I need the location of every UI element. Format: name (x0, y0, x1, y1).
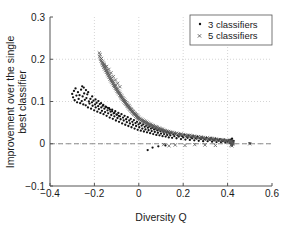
x-tick-label: 0 (136, 188, 142, 199)
scatter-plot-figure: −0.4−0.200.20.40.6−0.100.10.20.3 Diversi… (0, 0, 290, 229)
x-tick-label: 0.4 (221, 188, 235, 199)
y-axis-title-line2: best classifier (16, 70, 28, 134)
y-tick-label: 0.1 (31, 96, 45, 107)
x-tick-label: 0.2 (176, 188, 190, 199)
y-axis-title-line1: Improvement over the single (4, 36, 16, 169)
chart-canvas: −0.4−0.200.20.40.6−0.100.10.20.3 Diversi… (0, 0, 290, 229)
legend: 3 classifiers 5 classifiers (190, 15, 272, 45)
y-tick-label: 0.3 (31, 12, 45, 23)
x-tick-label: −0.2 (85, 188, 105, 199)
y-tick-label: −0.1 (25, 181, 45, 192)
legend-label-3-classifiers: 3 classifiers (208, 19, 258, 30)
x-axis-title: Diversity Q (135, 211, 186, 223)
x-tick-label: 0.6 (265, 188, 279, 199)
series-5-classifiers (98, 51, 252, 147)
legend-label-5-classifiers: 5 classifiers (208, 30, 258, 41)
y-tick-label: 0.2 (31, 54, 45, 65)
y-tick-label: 0 (39, 138, 45, 149)
dot-marker-icon (199, 23, 201, 25)
